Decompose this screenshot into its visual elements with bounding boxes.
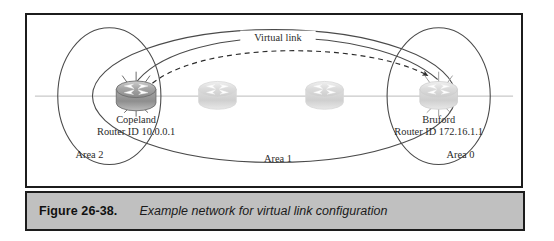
router-bruford-name: Bruford: [422, 115, 456, 126]
router-copeland-id: Router ID 10.0.0.1: [97, 126, 175, 137]
virtual-link-guide-arc: [134, 38, 438, 86]
router-bruford-labels: Bruford Router ID 172.16.1.1: [394, 115, 483, 138]
virtual-link-path: [146, 51, 428, 90]
figure-caption-text: Example network for virtual link configu…: [139, 204, 387, 218]
diagram-frame: Virtual link: [25, 13, 523, 188]
area-2-label: Area 2: [75, 149, 103, 160]
router-copeland-name: Copeland: [116, 115, 157, 126]
virtual-link-label-group: Virtual link: [240, 31, 315, 45]
router-copeland-labels: Copeland Router ID 10.0.0.1: [97, 115, 175, 138]
network-diagram: Virtual link: [27, 15, 521, 186]
virtual-link-label: Virtual link: [254, 32, 302, 43]
router-copeland[interactable]: [116, 72, 156, 117]
area-0-label: Area 0: [446, 149, 474, 160]
router-transit-2[interactable]: [306, 81, 344, 109]
router-transit-1[interactable]: [199, 81, 237, 109]
figure-caption-band: Figure 26-38. Example network for virtua…: [25, 191, 525, 231]
figure-number: Figure 26-38.: [39, 204, 117, 218]
router-bruford-id: Router ID 172.16.1.1: [394, 126, 483, 137]
area-1-label: Area 1: [264, 153, 292, 164]
figure-root: Virtual link: [0, 0, 554, 241]
